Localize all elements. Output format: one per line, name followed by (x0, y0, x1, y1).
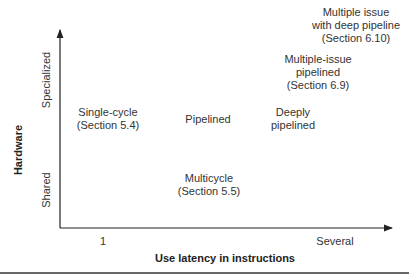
node-line: pipelined (271, 119, 315, 132)
node-line: Multicycle (178, 172, 240, 185)
node-multiple-issue-pipelined: Multiple-issue pipelined (Section 6.9) (284, 53, 351, 92)
node-line: pipelined (284, 66, 351, 79)
y-axis-title: Hardware (12, 125, 24, 175)
node-line: Pipelined (185, 113, 230, 126)
x-axis-title: Use latency in instructions (155, 252, 295, 265)
node-line: (Section 6.10) (312, 32, 400, 45)
node-pipelined: Pipelined (185, 113, 230, 126)
x-tick-several: Several (316, 235, 353, 248)
node-single-cycle: Single-cycle (Section 5.4) (77, 106, 139, 132)
node-line: with deep pipeline (312, 19, 400, 32)
node-line: Multiple-issue (284, 53, 351, 66)
node-line: (Section 5.4) (77, 119, 139, 132)
x-tick-1: 1 (100, 235, 106, 248)
node-deeply-pipelined: Deeply pipelined (271, 106, 315, 132)
y-tick-shared: Shared (40, 172, 52, 207)
node-multicycle: Multicycle (Section 5.5) (178, 172, 240, 198)
node-line: Multiple issue (312, 6, 400, 19)
node-line: (Section 5.5) (178, 185, 240, 198)
y-tick-specialized: Specialized (40, 52, 52, 108)
node-line: Deeply (271, 106, 315, 119)
node-line: Single-cycle (77, 106, 139, 119)
node-line: (Section 6.9) (284, 79, 351, 92)
node-multiple-issue-deep: Multiple issue with deep pipeline (Secti… (312, 6, 400, 45)
